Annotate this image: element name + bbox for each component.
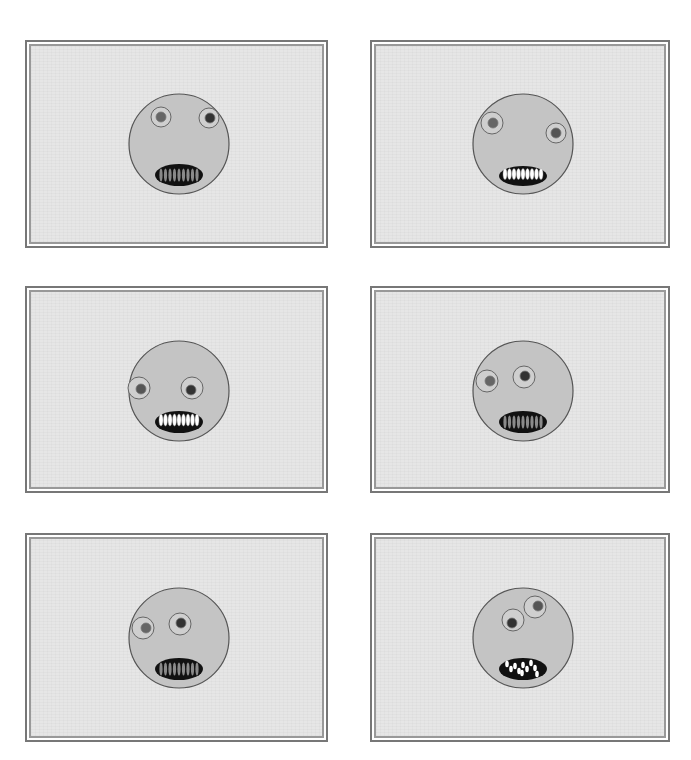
left-eye-icon (502, 609, 524, 631)
panel-top-left (25, 40, 328, 248)
panel-canvas (374, 290, 666, 489)
panel-canvas (29, 44, 324, 244)
left-eye-icon (151, 107, 171, 127)
mouth-icon (155, 411, 203, 433)
face-icon (376, 292, 668, 491)
left-eye-icon (132, 617, 154, 639)
panel-top-right (370, 40, 670, 248)
face-icon (31, 539, 326, 740)
right-eye-icon (513, 366, 535, 388)
left-eye-icon (128, 377, 150, 399)
panel-canvas (29, 537, 324, 738)
face-icon (31, 292, 326, 491)
mouth-icon (499, 658, 547, 680)
mouth-icon (499, 411, 547, 433)
panel-middle-right (370, 286, 670, 493)
right-eye-icon (199, 108, 219, 128)
panel-canvas (29, 290, 324, 489)
panel-bottom-right (370, 533, 670, 742)
left-eye-icon (481, 112, 503, 134)
right-eye-icon (181, 377, 203, 399)
right-eye-icon (546, 123, 566, 143)
right-eye-icon (524, 596, 546, 618)
panel-canvas (374, 44, 666, 244)
panel-middle-left (25, 286, 328, 493)
face-icon (376, 539, 668, 740)
left-eye-icon (476, 370, 498, 392)
face-icon (376, 46, 668, 246)
mouth-icon (499, 166, 547, 186)
panel-bottom-left (25, 533, 328, 742)
mouth-icon (155, 164, 203, 186)
panel-canvas (374, 537, 666, 738)
right-eye-icon (169, 613, 191, 635)
mouth-icon (155, 658, 203, 680)
face-icon (31, 46, 326, 246)
